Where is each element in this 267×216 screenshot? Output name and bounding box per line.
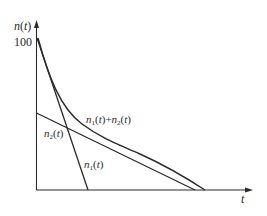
label-n2: n2(t) <box>44 127 64 141</box>
decay-diagram: n(t) 100 t n1(t) n2(t) n1(t)+n2(t) <box>0 0 267 216</box>
y-axis-arrow-icon <box>34 20 39 28</box>
label-n1: n1(t) <box>84 158 104 172</box>
label-sum: n1(t)+n2(t) <box>86 113 131 127</box>
x-axis-label: t <box>241 192 245 206</box>
x-axis-arrow-icon <box>245 188 253 193</box>
y-axis-label: n(t) <box>14 19 31 33</box>
y-tick-100: 100 <box>14 35 32 49</box>
